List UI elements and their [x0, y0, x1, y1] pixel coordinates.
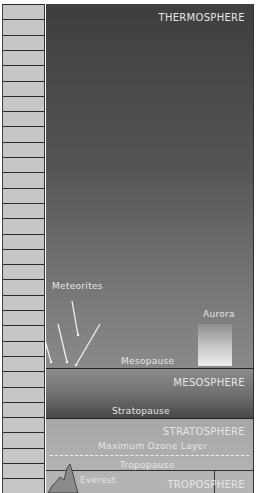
scale-row-divider — [3, 371, 44, 372]
aurora-label: Aurora — [203, 309, 235, 319]
meteorites-label: Meteorites — [52, 281, 103, 291]
scale-row-divider — [3, 325, 44, 326]
scale-row-divider — [3, 432, 44, 433]
scale-row-divider — [3, 264, 44, 265]
scale-row-divider — [3, 295, 44, 296]
everest-label: Everest — [80, 475, 116, 485]
scale-row-divider — [3, 402, 44, 403]
scale-row-divider — [3, 203, 44, 204]
mesosphere-label: MESOSPHERE — [173, 377, 245, 388]
scale-row-divider — [3, 111, 44, 112]
meteorite-arrows-icon — [46, 301, 100, 365]
scale-row-divider — [3, 310, 44, 311]
scale-row-divider — [3, 35, 44, 36]
troposphere-label: TROPOSPHERE — [167, 479, 245, 490]
scale-row-divider — [3, 19, 44, 20]
scale-row-divider — [3, 157, 44, 158]
scale-row-divider — [3, 142, 44, 143]
scale-row-divider — [3, 279, 44, 280]
scale-row-divider — [3, 65, 44, 66]
scale-row-divider — [3, 172, 44, 173]
meteorite-and-mountain-graphics — [46, 4, 254, 493]
stratosphere-label: STRATOSPHERE — [163, 426, 245, 437]
scale-row-divider — [3, 188, 44, 189]
scale-row-divider — [3, 96, 44, 97]
scale-row-divider — [3, 478, 44, 479]
scale-row-divider — [3, 356, 44, 357]
scale-row-divider — [3, 249, 44, 250]
scale-row-divider — [3, 50, 44, 51]
scale-row-divider — [3, 387, 44, 388]
atmosphere-diagram: THERMOSPHERE Meteorites Aurora Mesopause… — [46, 4, 254, 493]
scale-row-divider — [3, 126, 44, 127]
scale-row-divider — [3, 234, 44, 235]
everest-mountain-icon — [48, 464, 78, 493]
scale-row-divider — [3, 341, 44, 342]
stratopause-label: Stratopause — [112, 406, 170, 416]
tropopause-label: Tropopause — [120, 460, 175, 470]
scale-row-divider — [3, 417, 44, 418]
scale-row-divider — [3, 448, 44, 449]
mesopause-label: Mesopause — [121, 356, 174, 366]
thermosphere-label: THERMOSPHERE — [159, 12, 245, 23]
altitude-scale-column — [2, 4, 45, 493]
scale-row-divider — [3, 4, 44, 5]
ozone-layer-label: Maximum Ozone Layer — [98, 441, 207, 451]
scale-row-divider — [3, 463, 44, 464]
scale-row-divider — [3, 81, 44, 82]
scale-row-divider — [3, 218, 44, 219]
